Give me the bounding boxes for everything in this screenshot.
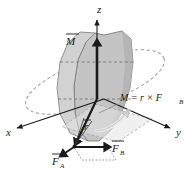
moment-equation-group: M = r × F B [119, 92, 184, 106]
force-b-label: F [111, 142, 119, 154]
figure-3d-moment-diagram: z x y M r F A F B [0, 0, 190, 172]
force-b-subscript: B [120, 149, 125, 157]
force-a-label: F [51, 155, 59, 167]
x-axis-label: x [5, 126, 11, 138]
x-axis-label-group: x [5, 126, 11, 138]
figure-canvas: z x y M r F A F B [0, 0, 190, 172]
force-a-label-group: F A [51, 154, 65, 170]
moment-equation-label: M = r × F [119, 92, 163, 103]
y-axis-label-group: y [175, 126, 181, 138]
position-vector-label: r [84, 120, 89, 132]
moment-equation-subscript: B [179, 98, 184, 106]
z-axis-label-group: z [96, 3, 102, 15]
z-axis-label: z [96, 3, 102, 15]
force-a-subscript: A [59, 162, 65, 170]
y-axis-label: y [175, 126, 181, 138]
moment-vector-label: M [65, 35, 76, 47]
force-b-label-group: F B [111, 141, 125, 157]
dotted-force-parallelogram [74, 147, 116, 160]
